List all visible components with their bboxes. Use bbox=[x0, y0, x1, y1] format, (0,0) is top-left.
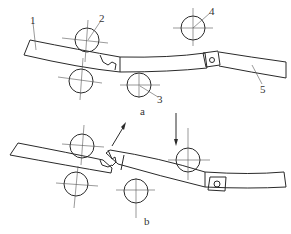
pin-hole-a bbox=[210, 58, 215, 63]
link-divider-b bbox=[121, 155, 124, 170]
strip-mid-a bbox=[120, 53, 207, 72]
pin-block-b bbox=[208, 177, 226, 191]
roller-lower-left-a bbox=[58, 58, 102, 100]
roller-lower-mid-b bbox=[116, 178, 155, 218]
roller-lower-left-b bbox=[56, 166, 98, 208]
label-3: 3 bbox=[157, 93, 163, 105]
subfigure-b: b bbox=[10, 113, 286, 227]
subfigure-label-a: a bbox=[140, 105, 145, 117]
strip-right-b bbox=[205, 172, 286, 188]
roller-2 bbox=[62, 20, 108, 62]
hook-joint-b bbox=[100, 160, 112, 167]
leader-1 bbox=[33, 23, 36, 50]
hook-notch-b bbox=[108, 150, 116, 166]
roller-4 bbox=[173, 8, 213, 46]
label-2: 2 bbox=[99, 12, 105, 24]
strip-left-a bbox=[24, 40, 120, 72]
pin-hole-b bbox=[214, 181, 220, 187]
roller-upper-right-b bbox=[168, 128, 210, 180]
label-5: 5 bbox=[260, 83, 266, 95]
subfigure-a: 1 2 3 4 5 a bbox=[24, 5, 286, 117]
leader-3 bbox=[140, 86, 158, 97]
strip-left-b bbox=[10, 143, 112, 173]
leader-5 bbox=[252, 65, 262, 84]
arrow-down-icon bbox=[174, 113, 178, 146]
hook-joint-a bbox=[100, 55, 116, 70]
leader-4 bbox=[193, 13, 210, 28]
strip-right-a bbox=[219, 52, 286, 78]
label-1: 1 bbox=[30, 14, 36, 26]
subfigure-label-b: b bbox=[144, 215, 150, 227]
arrow-up-right-icon bbox=[112, 122, 126, 146]
diagram-canvas: 1 2 3 4 5 a bbox=[0, 0, 291, 234]
label-4: 4 bbox=[209, 5, 215, 17]
